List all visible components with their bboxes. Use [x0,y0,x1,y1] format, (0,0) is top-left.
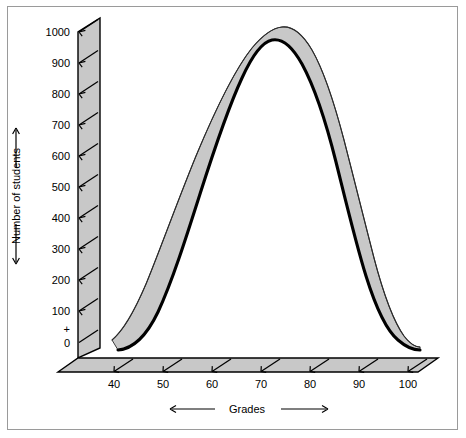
x-axis-title: Grades [229,403,265,415]
y-tick-label-900: 900 [32,58,70,69]
y-axis-break-marker: + [32,324,70,335]
primary-distribution-curve [118,40,420,350]
primary-curve-line [118,40,420,350]
y-axis-band-face [78,18,100,358]
y-tick-label-600: 600 [32,151,70,162]
x-tick-label-80: 80 [292,379,328,390]
x-tick-label-40: 40 [96,379,132,390]
x-axis-band [58,358,438,372]
x-tick-label-50: 50 [145,379,181,390]
y-tick-label-300: 300 [32,244,70,255]
figure-root: 1000 900 800 700 600 500 400 300 200 100… [0,0,466,438]
y-axis-title: Number of students [10,148,22,244]
x-axis-band-face [58,358,438,372]
y-tick-label-100: 100 [32,306,70,317]
y-tick-label-500: 500 [32,182,70,193]
y-tick-label-800: 800 [32,89,70,100]
x-tick-label-70: 70 [243,379,279,390]
y-tick-label-200: 200 [32,275,70,286]
y-tick-label-0: 0 [32,338,70,349]
x-tick-label-90: 90 [341,379,377,390]
y-tick-label-1000: 1000 [32,27,70,38]
y-axis-band [78,18,100,358]
x-tick-label-60: 60 [194,379,230,390]
x-tick-label-100: 100 [390,379,426,390]
y-tick-label-700: 700 [32,120,70,131]
y-tick-label-400: 400 [32,213,70,224]
